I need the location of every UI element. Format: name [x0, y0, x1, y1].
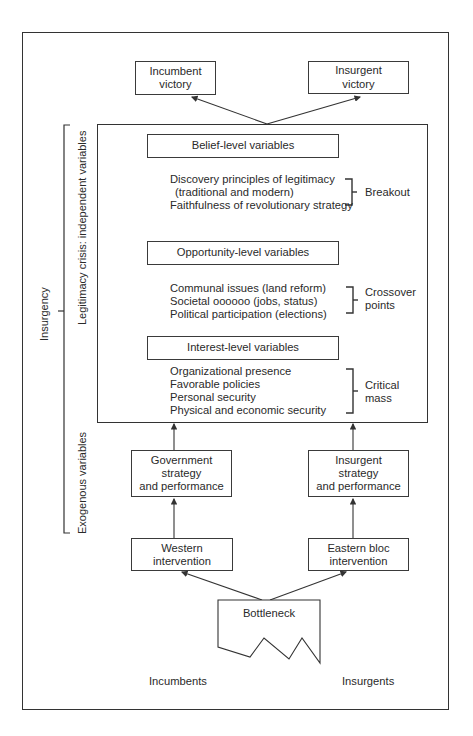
insurgent-victory-box: Insurgent victory [308, 61, 409, 94]
opportunity-item: Political participation (elections) [170, 308, 327, 322]
opportunity-item: Societal oooooo (jobs, status) [170, 295, 317, 309]
incumbent-victory-box: Incumbent victory [135, 61, 216, 95]
interest-item: Favorable policies [170, 378, 260, 392]
insurgents-label: Insurgents [342, 675, 394, 689]
government-strategy-box: Government strategy and performance [131, 450, 232, 497]
insurgent-victory-label: Insurgent victory [335, 64, 382, 91]
belief-item: (traditional and modern) [175, 186, 294, 200]
arrow-to-insurgent-victory [267, 97, 360, 124]
interest-item: Physical and economic security [170, 404, 326, 418]
insurgent-strategy-box: Insurgent strategy and performance [308, 450, 409, 497]
western-intervention-box: Western intervention [131, 538, 233, 571]
eastern-bloc-intervention-box: Eastern bloc intervention [308, 538, 409, 571]
crossover-points-label: Crossover points [365, 286, 416, 312]
interest-item: Personal security [170, 391, 256, 405]
opportunity-level-header: Opportunity-level variables [147, 241, 339, 265]
exogenous-variables-label: Exogenous variables [76, 432, 88, 534]
belief-level-header: Belief-level variables [147, 134, 339, 158]
arrow-to-incumbent-victory [192, 97, 267, 124]
belief-item: Faithfulness of revolutionary strategy [170, 199, 353, 213]
belief-item: Discovery principles of legitimacy [170, 173, 335, 187]
breakout-label: Breakout [365, 186, 410, 200]
incumbents-label: Incumbents [149, 675, 207, 689]
bottleneck-label: Bottleneck [218, 607, 320, 621]
incumbent-victory-label: Incumbent victory [149, 65, 201, 92]
interest-item: Organizational presence [170, 365, 291, 379]
legitimacy-crisis-label: Legitimacy crisis: independent variables [76, 131, 88, 325]
opportunity-item: Communal issues (land reform) [170, 282, 326, 296]
interest-level-header: Interest-level variables [147, 336, 339, 360]
critical-mass-label: Critical mass [365, 379, 399, 405]
insurgency-label: Insurgency [38, 287, 50, 341]
insurgency-bracket [64, 125, 70, 533]
